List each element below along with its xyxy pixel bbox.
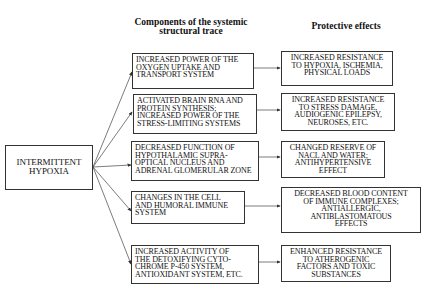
component-hypothalamic: DECREASED FUNCTION OF HYPOTHALAMIC SUPRA… bbox=[131, 141, 259, 181]
component-immune-system: CHANGES IN THE CELL AND HUMORAL IMMUNE S… bbox=[131, 191, 245, 224]
effect-immune-complexes: DECREASED BLOOD CONTENT OF IMMUNE COMPLE… bbox=[281, 187, 421, 233]
component-brain-rna: ACTIVATED BRAIN RNA AND PROTEIN SYNTHESI… bbox=[133, 94, 257, 134]
effect-hypoxia-resistance: INCREASED RESISTANCE TO HYPOXIA, ISCHEMI… bbox=[281, 51, 393, 86]
header-components: Components of the systemic structural tr… bbox=[128, 18, 254, 36]
effect-atherogenic-resistance: ENHANCED RESISTANCE TO ATHEROGENIC FACTO… bbox=[281, 245, 391, 282]
component-detoxifying: INCREASED ACTIVITY OF THE DETOXIFYING CY… bbox=[131, 245, 259, 284]
source-intermittent-hypoxia: INTERMITTENT HYPOXIA bbox=[5, 145, 93, 190]
component-oxygen-uptake: INCREASED POWER OF THE OXYGEN UPTAKE AND… bbox=[132, 53, 254, 89]
effect-stress-resistance: INCREASED RESISTANCE TO STRESS DAMAGE, A… bbox=[281, 93, 395, 131]
effect-nacl-water: CHANGED RESERVE OF NaCl AND WATER; ANTIH… bbox=[281, 141, 385, 178]
header-effects: Protective effects bbox=[296, 22, 396, 31]
